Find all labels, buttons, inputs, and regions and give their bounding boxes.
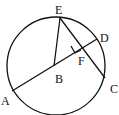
segment-EC [60, 18, 105, 78]
label-C: C [110, 82, 118, 96]
label-F: F [78, 54, 85, 68]
label-D: D [100, 31, 109, 45]
label-B: B [55, 72, 63, 86]
circle [7, 17, 105, 115]
segment-EB [54, 18, 60, 66]
label-E: E [55, 3, 62, 17]
geometry-diagram: E D F B C A [0, 0, 119, 115]
label-A: A [1, 94, 10, 108]
